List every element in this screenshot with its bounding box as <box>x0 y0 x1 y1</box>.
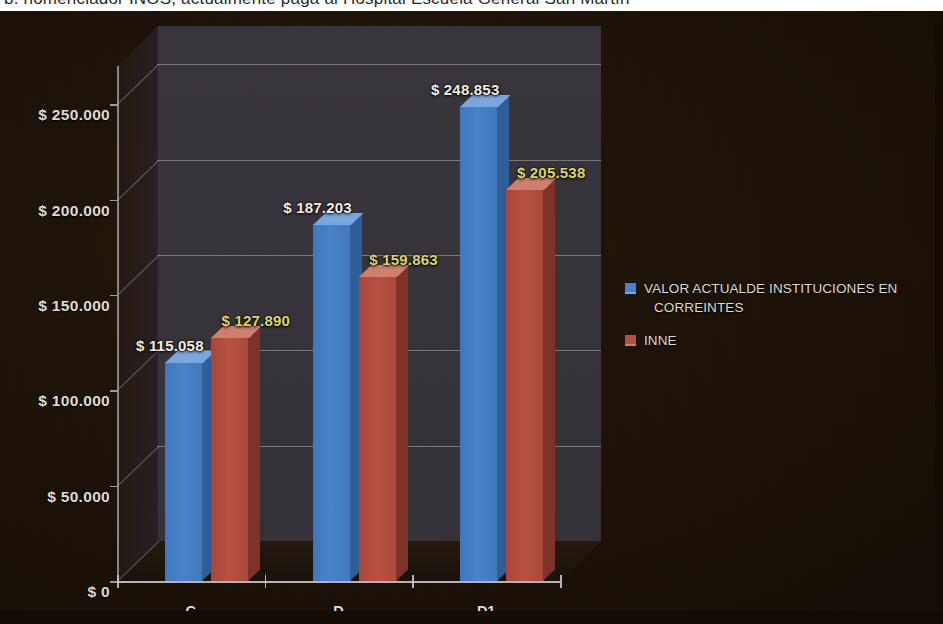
y-axis-label: $ 50.000 <box>0 488 110 506</box>
gridline <box>157 160 601 161</box>
chart-legend: VALOR ACTUALDE INSTITUCIONES EN CORREINT… <box>625 279 935 364</box>
gridline <box>157 64 601 65</box>
document-caption: b. nomenclador INOS, actualmente paga al… <box>0 0 943 11</box>
bar-D1-series-1[interactable] <box>460 106 498 581</box>
y-axis-label: $ 150.000 <box>0 297 110 315</box>
legend-label-series-2: INNE <box>625 331 935 350</box>
bar-C-series-1[interactable] <box>165 362 203 581</box>
bar-D1-series-2[interactable] <box>506 189 544 581</box>
legend-swatch-icon-series-1 <box>625 283 636 294</box>
bar-D-series-1[interactable] <box>313 224 351 581</box>
scan-right-edge <box>935 22 943 624</box>
bar-front-face <box>359 276 397 581</box>
data-label-C-series-2: $ 127.890 <box>222 312 291 329</box>
bar-front-face <box>313 224 351 581</box>
y-axis-label: $ 100.000 <box>0 392 110 410</box>
bar-front-face <box>165 362 203 581</box>
chart-canvas: $ 115.058$ 127.890$ 187.203$ 159.863$ 24… <box>0 11 943 611</box>
legend-item-series-1[interactable]: VALOR ACTUALDE INSTITUCIONES EN CORREINT… <box>625 279 935 317</box>
data-label-D1-series-1: $ 248.853 <box>431 81 500 98</box>
bar-front-face <box>460 106 498 581</box>
bar-front-face <box>211 337 249 581</box>
x-tick-mark <box>412 575 414 588</box>
y-axis-label: $ 0 <box>0 583 110 601</box>
bar-side-face <box>543 177 555 581</box>
x-tick-mark <box>560 575 562 588</box>
data-label-D1-series-2: $ 205.538 <box>517 164 586 181</box>
data-label-C-series-1: $ 115.058 <box>136 337 204 354</box>
y-axis-line <box>117 66 119 581</box>
chart-left-wall <box>117 26 158 581</box>
y-axis-label: $ 250.000 <box>0 106 110 124</box>
plot-area: $ 115.058$ 127.890$ 187.203$ 159.863$ 24… <box>117 26 601 571</box>
legend-swatch-icon-series-2 <box>625 335 636 346</box>
data-label-D-series-1: $ 187.203 <box>283 199 352 216</box>
bar-D-series-2[interactable] <box>359 276 397 581</box>
bar-side-face <box>396 264 408 581</box>
caption-text: b. nomenclador INOS, actualmente paga al… <box>0 0 943 9</box>
data-label-D-series-2: $ 159.863 <box>369 251 438 268</box>
bar-side-face <box>248 325 260 581</box>
legend-label-series-1: VALOR ACTUALDE INSTITUCIONES EN CORREINT… <box>625 279 935 317</box>
scan-bottom-edge <box>0 611 943 624</box>
x-axis-line <box>117 581 560 583</box>
bar-front-face <box>506 189 544 581</box>
x-tick-mark <box>117 575 119 588</box>
chart-screenshot: b. nomenclador INOS, actualmente paga al… <box>0 0 943 624</box>
legend-item-series-2[interactable]: INNE <box>625 331 935 350</box>
bar-C-series-2[interactable] <box>211 337 249 581</box>
y-axis-label: $ 200.000 <box>0 202 110 220</box>
x-tick-mark <box>265 575 267 588</box>
